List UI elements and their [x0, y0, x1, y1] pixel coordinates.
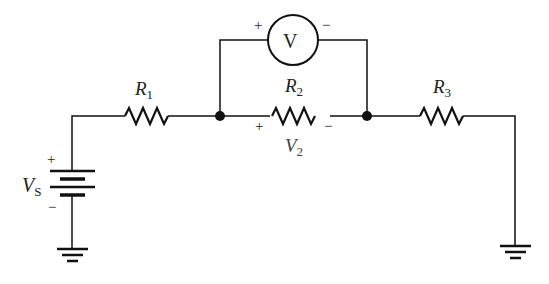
- battery-icon: [50, 171, 95, 195]
- svg-text:−: −: [322, 17, 330, 33]
- voltmeter-label: V: [283, 30, 298, 52]
- ground-right-icon: [500, 246, 531, 258]
- svg-text:+: +: [254, 17, 262, 33]
- node-left: [215, 111, 225, 121]
- r3-label: R3: [432, 76, 451, 100]
- svg-text:−: −: [48, 199, 56, 215]
- circuit-diagram: R1 R2 R3 V + − + − V2 + − VS: [0, 0, 549, 284]
- wire-left: [72, 116, 125, 170]
- wire-right-down: [463, 116, 515, 245]
- resistor-r3: [420, 108, 463, 124]
- v2-label: V2: [285, 135, 303, 159]
- r2-label: R2: [284, 75, 303, 99]
- resistor-r2: [272, 108, 315, 124]
- svg-text:+: +: [47, 151, 55, 167]
- node-right: [362, 111, 372, 121]
- ground-left-icon: [57, 249, 88, 261]
- vs-label: VS: [22, 174, 41, 199]
- svg-text:−: −: [324, 118, 332, 134]
- svg-text:+: +: [255, 118, 263, 134]
- r1-label: R1: [134, 78, 153, 102]
- circuit-svg: R1 R2 R3 V + − + − V2 + − VS: [0, 0, 549, 284]
- resistor-r1: [125, 108, 168, 124]
